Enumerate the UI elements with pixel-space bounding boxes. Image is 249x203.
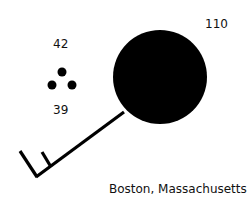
dew-point-value: 39 (53, 103, 68, 117)
present-weather-rain-icon (48, 68, 77, 90)
wind-barb-icon (20, 112, 124, 177)
temperature-value: 42 (53, 37, 68, 51)
location-label: Boston, Massachusetts (109, 182, 247, 196)
pressure-value: 110 (205, 17, 228, 31)
sky-cover-circle-icon (113, 30, 207, 124)
